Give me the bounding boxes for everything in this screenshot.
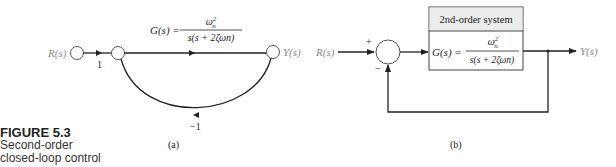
block-diagram-b: R(s) + − 2nd-order system G(s) = ω2n s(s… xyxy=(315,7,598,151)
arrow-icon xyxy=(189,50,195,56)
transfer-denominator: s(s + 2ζωn) xyxy=(188,32,235,44)
input-label: R(s) xyxy=(315,46,335,59)
summing-junction xyxy=(376,40,400,64)
transfer-lhs: G(s) = xyxy=(432,46,462,59)
input-label: R(s) xyxy=(47,47,67,60)
signal-flow-graph-a: R(s) 1 Y(s) −1 G(s) = ω2n s(s + 2ζωn) (a… xyxy=(47,15,301,151)
sublabel-b: (b) xyxy=(450,139,462,151)
arrow-icon xyxy=(193,112,199,118)
minus-sign: − xyxy=(375,63,381,74)
arrow-icon xyxy=(96,50,102,56)
feedback-gain-label: −1 xyxy=(190,121,201,132)
gain-1-label: 1 xyxy=(97,59,102,70)
output-label: Y(s) xyxy=(283,46,301,59)
diagram-canvas: R(s) 1 Y(s) −1 G(s) = ω2n s(s + 2ζωn) (a… xyxy=(0,0,616,167)
block-title: 2nd-order system xyxy=(439,14,512,25)
output-label: Y(s) xyxy=(580,45,598,58)
plus-sign: + xyxy=(366,36,372,47)
summing-node xyxy=(112,47,125,60)
feedback-branch xyxy=(121,58,271,108)
input-node xyxy=(71,47,84,60)
transfer-lhs: G(s) = xyxy=(150,24,180,37)
output-node xyxy=(267,46,280,59)
transfer-denominator: s(s + 2ζωn) xyxy=(470,55,514,66)
transfer-numerator: ω2n xyxy=(206,15,217,30)
sublabel-a: (a) xyxy=(168,139,179,151)
